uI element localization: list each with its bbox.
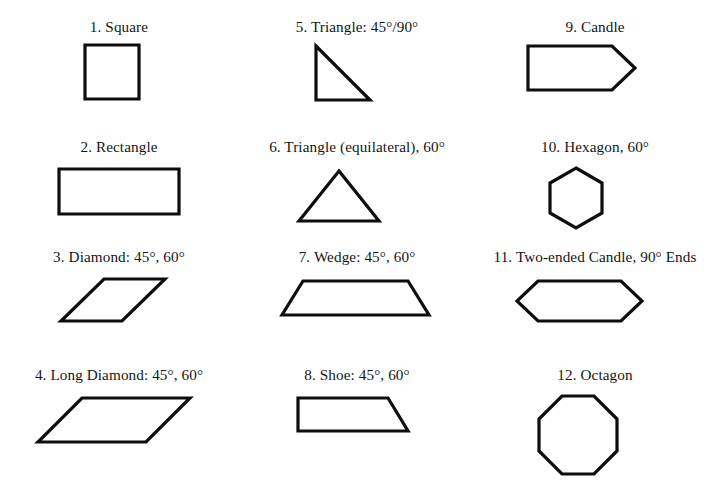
shape-cell-long-diamond: 4. Long Diamond: 45°, 60° <box>0 366 238 482</box>
shape-cell-octagon: 12. Octagon <box>476 366 714 482</box>
shape-figure-shoe <box>238 388 476 482</box>
shape-outline-candle <box>528 46 635 90</box>
shape-cell-triangle-equilateral: 6. Triangle (equilateral), 60° <box>238 138 476 258</box>
shape-figure-diamond <box>0 270 238 366</box>
shape-svg-wedge <box>238 270 476 366</box>
shape-label-octagon: 12. Octagon <box>476 366 714 384</box>
shape-svg-rectangle <box>0 160 238 256</box>
shape-label-triangle-45-90: 5. Triangle: 45°/90° <box>238 18 476 36</box>
shape-svg-triangle-equilateral <box>238 160 476 256</box>
shape-svg-long-diamond <box>0 388 238 482</box>
shape-cell-candle: 9. Candle <box>476 18 714 138</box>
shape-figure-wedge <box>238 270 476 366</box>
shape-outline-two-ended-candle <box>517 281 642 321</box>
shape-figure-square <box>0 40 238 136</box>
shape-svg-candle <box>476 40 714 136</box>
shape-label-square: 1. Square <box>0 18 238 36</box>
shape-reference-sheet: 1. Square5. Triangle: 45°/90°9. Candle2.… <box>0 0 715 482</box>
shape-figure-candle <box>476 40 714 136</box>
shape-svg-shoe <box>238 388 476 482</box>
shape-svg-hexagon <box>476 160 714 256</box>
shape-svg-octagon <box>476 388 714 482</box>
shape-figure-octagon <box>476 388 714 482</box>
shape-outline-rectangle <box>59 169 179 214</box>
shape-outline-triangle-45-90 <box>316 46 370 100</box>
shape-outline-diamond <box>61 279 165 321</box>
shape-label-wedge: 7. Wedge: 45°, 60° <box>238 248 476 266</box>
shape-figure-triangle-equilateral <box>238 160 476 256</box>
shape-label-triangle-equilateral: 6. Triangle (equilateral), 60° <box>238 138 476 156</box>
shape-svg-two-ended-candle <box>476 270 714 366</box>
shape-cell-diamond: 3. Diamond: 45°, 60° <box>0 248 238 368</box>
shape-cell-triangle-45-90: 5. Triangle: 45°/90° <box>238 18 476 138</box>
shape-cell-two-ended-candle: 11. Two-ended Candle, 90° Ends <box>476 248 714 368</box>
shape-label-candle: 9. Candle <box>476 18 714 36</box>
shape-outline-long-diamond <box>38 398 190 442</box>
shape-svg-square <box>0 40 238 136</box>
shape-label-long-diamond: 4. Long Diamond: 45°, 60° <box>0 366 238 384</box>
shape-label-hexagon: 10. Hexagon, 60° <box>476 138 714 156</box>
shape-outline-wedge <box>282 281 429 315</box>
shape-cell-shoe: 8. Shoe: 45°, 60° <box>238 366 476 482</box>
shape-outline-octagon <box>539 396 617 474</box>
shape-figure-triangle-45-90 <box>238 40 476 136</box>
shape-svg-diamond <box>0 270 238 366</box>
shape-cell-square: 1. Square <box>0 18 238 138</box>
shape-label-two-ended-candle: 11. Two-ended Candle, 90° Ends <box>476 248 714 266</box>
shape-figure-two-ended-candle <box>476 270 714 366</box>
shape-outline-square <box>85 45 139 99</box>
shape-cell-hexagon: 10. Hexagon, 60° <box>476 138 714 258</box>
shape-cell-rectangle: 2. Rectangle <box>0 138 238 258</box>
shape-figure-hexagon <box>476 160 714 256</box>
shape-label-diamond: 3. Diamond: 45°, 60° <box>0 248 238 266</box>
shape-figure-long-diamond <box>0 388 238 482</box>
shape-svg-triangle-45-90 <box>238 40 476 136</box>
shape-label-shoe: 8. Shoe: 45°, 60° <box>238 366 476 384</box>
shape-figure-rectangle <box>0 160 238 256</box>
shape-cell-wedge: 7. Wedge: 45°, 60° <box>238 248 476 368</box>
shape-outline-triangle-equilateral <box>299 171 379 221</box>
shape-outline-shoe <box>298 398 408 431</box>
shape-label-rectangle: 2. Rectangle <box>0 138 238 156</box>
shape-outline-hexagon <box>550 168 602 228</box>
